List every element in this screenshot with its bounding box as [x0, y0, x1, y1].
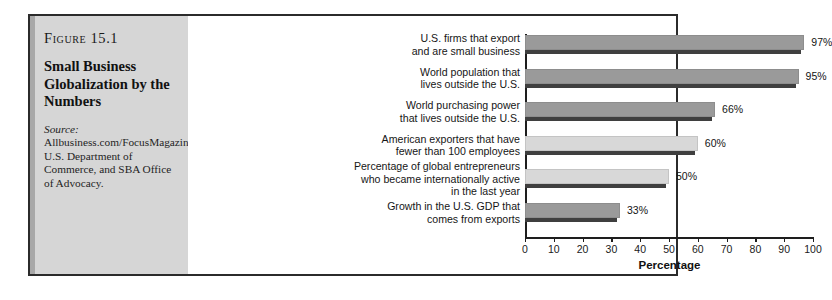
chart-bar-shadow	[525, 117, 712, 121]
x-axis-tick-label: 70	[721, 243, 733, 255]
chart-bar-group[interactable]: 97%	[525, 35, 813, 69]
chart-row-label-line: who became internationally active	[285, 173, 520, 186]
chart-row: World purchasing powerthat lives outside…	[188, 102, 676, 136]
chart-bar-shadow	[525, 84, 796, 88]
x-axis-tick	[669, 237, 670, 242]
chart-bar[interactable]	[525, 136, 698, 151]
chart-row-label: World purchasing powerthat lives outside…	[285, 99, 525, 124]
chart-row: World population thatlives outside the U…	[188, 69, 676, 103]
x-axis-tick	[525, 237, 526, 242]
chart-bar-shadow	[525, 151, 695, 155]
chart-bar[interactable]	[525, 69, 799, 84]
x-axis-tick-label: 10	[548, 243, 560, 255]
x-axis-tick-label: 0	[522, 243, 528, 255]
chart-bar[interactable]	[525, 169, 669, 184]
x-axis-tick	[755, 237, 756, 242]
chart-row-label: Growth in the U.S. GDP thatcomes from ex…	[285, 200, 525, 225]
chart-row-label-line: comes from exports	[285, 213, 520, 226]
chart-area: Percentage 0102030405060708090100U.S. fi…	[188, 16, 676, 274]
chart-bar[interactable]	[525, 203, 620, 218]
x-axis-tick	[611, 237, 612, 242]
chart-bar-value-label: 60%	[705, 137, 726, 149]
chart-row-label-line: Growth in the U.S. GDP that	[285, 200, 520, 213]
chart-bar-value-label: 66%	[722, 103, 743, 115]
chart-bar-value-label: 50%	[676, 170, 697, 182]
chart-bar-group[interactable]: 60%	[525, 136, 813, 170]
chart-bar-shadow	[525, 50, 801, 54]
chart-row: U.S. firms that exportand are small busi…	[188, 35, 676, 69]
chart-bar-group[interactable]: 66%	[525, 102, 813, 136]
figure-container: Figure 15.1 Small Business Globalization…	[28, 14, 678, 276]
chart-row-label-line: U.S. firms that export	[285, 32, 520, 45]
chart-bar-value-label: 33%	[627, 204, 648, 216]
chart-row-label-line: and are small business	[285, 45, 520, 58]
x-axis-tick	[727, 237, 728, 242]
chart-row-label-line: American exporters that have	[285, 133, 520, 146]
x-axis-tick-label: 60	[692, 243, 704, 255]
chart-row-label: U.S. firms that exportand are small busi…	[285, 32, 525, 57]
x-axis-tick	[698, 237, 699, 242]
chart-row-label-line: World population that	[285, 66, 520, 79]
chart-bar-group[interactable]: 50%	[525, 169, 813, 203]
chart-row-label: American exporters that havefewer than 1…	[285, 133, 525, 158]
chart-row-label-line: Percentage of global entrepreneurs	[285, 160, 520, 173]
x-axis-tick	[583, 237, 584, 242]
figure-title: Small Business Globalization by the Numb…	[44, 58, 177, 111]
chart-row-label-line: fewer than 100 employees	[285, 145, 520, 158]
x-axis-tick-label: 20	[577, 243, 589, 255]
figure-source: Source: Allbusiness.com/FocusMagazine/Go…	[44, 123, 177, 191]
chart-bar-shadow	[525, 218, 617, 222]
chart-row: Growth in the U.S. GDP thatcomes from ex…	[188, 203, 676, 237]
chart-bar[interactable]	[525, 102, 715, 117]
chart-bar-value-label: 95%	[806, 70, 827, 82]
chart-row-label-line: World purchasing power	[285, 99, 520, 112]
chart-bar-group[interactable]: 95%	[525, 69, 813, 103]
x-axis-tick-label: 100	[804, 243, 822, 255]
chart-bar-group[interactable]: 33%	[525, 203, 813, 237]
x-axis-tick-label: 50	[663, 243, 675, 255]
chart-row-label-line: that lives outside the U.S.	[285, 112, 520, 125]
chart-row-label: Percentage of global entrepreneurswho be…	[285, 160, 525, 198]
source-label: Source:	[44, 123, 79, 135]
figure-number-label: Figure 15.1	[44, 30, 177, 47]
x-axis-title: Percentage	[525, 259, 814, 271]
x-axis-tick-label: 30	[606, 243, 618, 255]
chart-bar-shadow	[525, 184, 666, 188]
x-axis-tick	[813, 237, 814, 242]
bar-chart-plot: Percentage 0102030405060708090100U.S. fi…	[188, 16, 676, 274]
x-axis-tick-label: 40	[634, 243, 646, 255]
x-axis-tick-label: 90	[778, 243, 790, 255]
chart-row-label-line: in the last year	[285, 185, 520, 198]
x-axis-tick	[784, 237, 785, 242]
chart-row: Percentage of global entrepreneurswho be…	[188, 169, 676, 203]
chart-row-label: World population thatlives outside the U…	[285, 66, 525, 91]
chart-bar-value-label: 97%	[811, 36, 832, 48]
figure-sidebar: Figure 15.1 Small Business Globalization…	[30, 16, 188, 274]
x-axis-tick	[554, 237, 555, 242]
sidebar-accent-bar	[30, 16, 35, 274]
chart-row-label-line: lives outside the U.S.	[285, 78, 520, 91]
x-axis-tick	[640, 237, 641, 242]
x-axis-tick-label: 80	[750, 243, 762, 255]
chart-bar[interactable]	[525, 35, 804, 50]
